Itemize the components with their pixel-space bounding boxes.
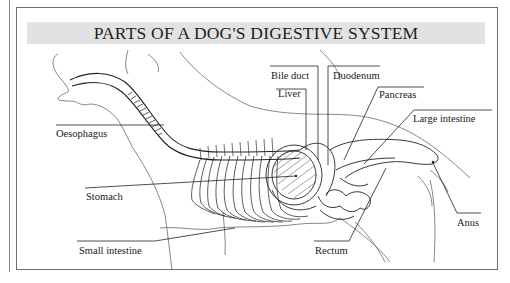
dog-digestive-illustration xyxy=(0,0,510,283)
label-anus: Anus xyxy=(457,217,479,229)
label-large-intestine: Large intestine xyxy=(413,113,476,125)
label-stomach: Stomach xyxy=(86,191,123,203)
label-pancreas: Pancreas xyxy=(379,89,416,101)
label-small-intestine: Small intestine xyxy=(79,245,142,257)
label-liver: Liver xyxy=(278,88,301,100)
label-bile-duct: Bile duct xyxy=(271,70,309,82)
label-oesophagus: Oesophagus xyxy=(56,128,107,140)
label-rectum: Rectum xyxy=(315,245,348,257)
label-duodenum: Duodenum xyxy=(333,70,380,82)
